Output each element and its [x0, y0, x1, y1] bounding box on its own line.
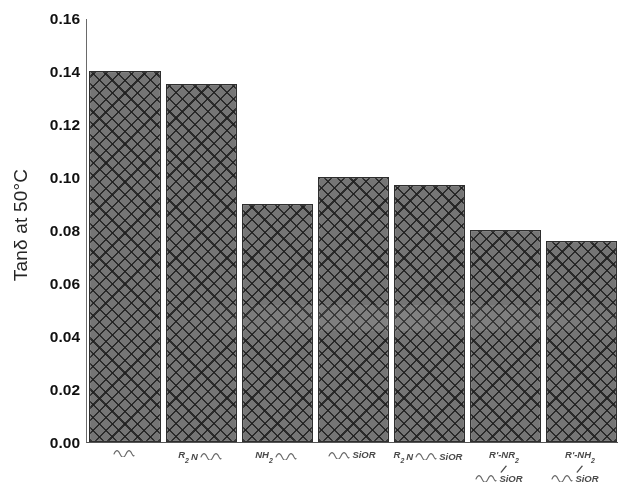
- x-label-text: R2: [394, 449, 405, 464]
- y-axis-tick-label: 0.06: [30, 275, 80, 293]
- bond-slash: /: [501, 465, 506, 474]
- label-r2n-sior[interactable]: R2NSiOR: [390, 446, 466, 483]
- bar-slot: [391, 19, 467, 442]
- bar-chart: Tanδ at 50°C 0.160.140.120.100.080.060.0…: [0, 0, 618, 483]
- label-plain-chain[interactable]: [86, 446, 162, 483]
- subscript: 2: [269, 457, 273, 464]
- x-label-line: R2N: [178, 449, 222, 464]
- x-label-line: [113, 449, 135, 457]
- y-axis-tick-label: 0.10: [30, 169, 80, 187]
- subscript: 2: [591, 457, 595, 464]
- x-label-line: R'-NH2: [565, 449, 595, 464]
- x-label-line: NH2: [255, 449, 297, 464]
- polymer-chain-squiggle-icon: [328, 451, 350, 459]
- x-label-text: N: [191, 451, 198, 462]
- polymer-chain-squiggle-icon: [275, 452, 297, 460]
- y-axis-title: Tanδ at 50°C: [10, 125, 32, 325]
- bar[interactable]: [166, 84, 237, 442]
- x-label-text: N: [406, 451, 413, 462]
- polymer-chain-squiggle-icon: [415, 452, 437, 460]
- y-axis-tick-label: 0.00: [30, 434, 80, 452]
- x-axis-tick-labels: R2NNH2SiORR2NSiORR'-NR2/SiORR'-NH2/SiOR: [86, 446, 618, 483]
- x-label-line: R2NSiOR: [394, 449, 463, 464]
- y-axis-tick-label: 0.04: [30, 328, 80, 346]
- y-axis-tick-label: 0.02: [30, 381, 80, 399]
- x-label-text: NH2: [255, 449, 273, 464]
- label-rprime-nh2-sior[interactable]: R'-NH2/SiOR: [542, 446, 618, 483]
- y-axis-tick-label: 0.16: [30, 10, 80, 28]
- bond-slash: /: [577, 465, 582, 474]
- subscript: 2: [515, 457, 519, 464]
- x-label-line: R'-NR2: [489, 449, 519, 464]
- plot-area: [86, 19, 618, 443]
- x-label-text: R'-NH2: [565, 449, 595, 464]
- bar-slot: [239, 19, 315, 442]
- label-rprime-nr2-sior[interactable]: R'-NR2/SiOR: [466, 446, 542, 483]
- bar[interactable]: [318, 177, 389, 442]
- bar[interactable]: [394, 185, 465, 442]
- subscript: 2: [185, 457, 189, 464]
- x-label-text: SiOR: [352, 449, 375, 460]
- label-sior[interactable]: SiOR: [314, 446, 390, 483]
- bar-slot: [467, 19, 543, 442]
- bar-slot: [543, 19, 618, 442]
- x-label-line: SiOR: [328, 449, 375, 460]
- bar-slot: [87, 19, 163, 442]
- polymer-chain-squiggle-icon: [551, 474, 573, 482]
- label-nh2[interactable]: NH2: [238, 446, 314, 483]
- y-axis-tick-labels: 0.160.140.120.100.080.060.040.020.00: [30, 0, 80, 483]
- x-label-line: SiOR: [551, 473, 598, 483]
- polymer-chain-squiggle-icon: [200, 452, 222, 460]
- y-axis-tick-label: 0.08: [30, 222, 80, 240]
- polymer-chain-squiggle-icon: [475, 474, 497, 482]
- bar[interactable]: [546, 241, 617, 442]
- bar[interactable]: [89, 71, 161, 442]
- y-axis-tick-label: 0.14: [30, 63, 80, 81]
- x-label-text: SiOR: [439, 451, 462, 462]
- bar-slot: [315, 19, 391, 442]
- subscript: 2: [400, 457, 404, 464]
- bar-series: [87, 19, 618, 442]
- x-label-line: SiOR: [475, 473, 522, 483]
- x-label-text: R2: [178, 449, 189, 464]
- x-label-text: R'-NR2: [489, 449, 519, 464]
- y-axis-tick-label: 0.12: [30, 116, 80, 134]
- bar-slot: [163, 19, 239, 442]
- bar[interactable]: [470, 230, 541, 442]
- polymer-chain-squiggle-icon: [113, 449, 135, 457]
- bar[interactable]: [242, 204, 313, 443]
- label-r2n[interactable]: R2N: [162, 446, 238, 483]
